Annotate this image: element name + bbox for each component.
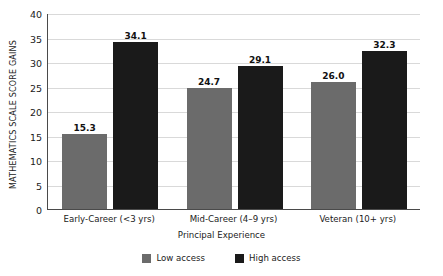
y-tick-label: 25 [14,82,42,93]
category-label: Veteran (10+ yrs) [296,214,420,224]
bar [62,134,107,209]
bar [187,88,232,209]
gridline [48,14,420,15]
legend-label: High access [249,253,300,263]
bar-value-label: 34.1 [113,31,158,41]
plot-area: 15.334.124.729.126.032.3 [47,14,420,210]
bar-value-label: 32.3 [362,40,407,50]
legend-item[interactable]: Low access [142,253,205,263]
category-label: Mid-Career (4–9 yrs) [171,214,295,224]
y-tick-label: 20 [14,107,42,118]
legend-swatch-icon [142,254,151,263]
bar [362,51,407,209]
bar [238,66,283,209]
y-tick-label: 10 [14,156,42,167]
bar-chart: MATHEMATICS SCALE SCORE GAINS 0510152025… [0,0,443,276]
y-tick-label: 5 [14,180,42,191]
category-label: Early-Career (<3 yrs) [47,214,171,224]
chart-legend: Low accessHigh access [0,253,443,263]
bar-value-label: 29.1 [238,55,283,65]
y-tick-label: 15 [14,131,42,142]
y-tick-label: 40 [14,9,42,20]
y-tick-label: 35 [14,33,42,44]
y-tick-label: 30 [14,58,42,69]
legend-label: Low access [156,253,205,263]
y-tick-label: 0 [14,205,42,216]
x-axis-title: Principal Experience [0,230,443,240]
legend-item[interactable]: High access [235,253,300,263]
bar-value-label: 26.0 [311,71,356,81]
bar-value-label: 15.3 [62,123,107,133]
bar [113,42,158,209]
bar-value-label: 24.7 [187,77,232,87]
bar [311,82,356,209]
legend-swatch-icon [235,254,244,263]
